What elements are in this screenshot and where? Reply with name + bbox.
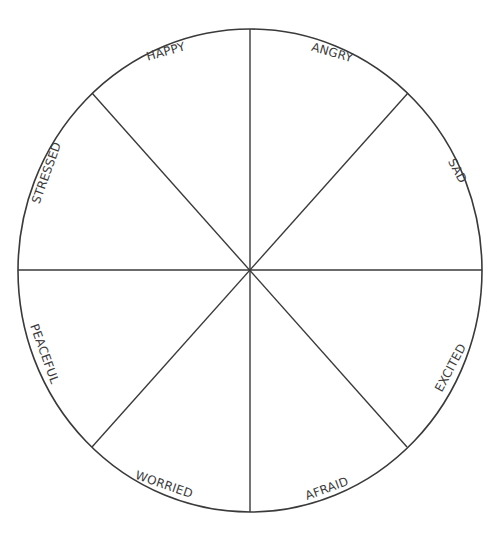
emotion-wheel: HAPPY ANGRY SAD EXCITED AFRAID WORRIED P… (0, 0, 503, 533)
